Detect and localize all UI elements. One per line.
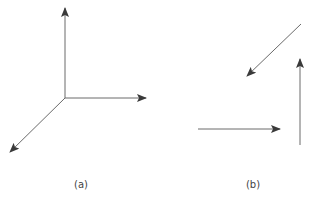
panel-a-label: (a) — [74, 180, 88, 190]
panel-b-label: (b) — [246, 180, 260, 190]
panel-a — [10, 8, 146, 152]
down-left-vector-arrow-icon — [10, 98, 65, 152]
vector-diagram — [0, 0, 314, 201]
down-left-vector-arrow-icon — [247, 24, 301, 76]
panel-b — [198, 24, 301, 145]
